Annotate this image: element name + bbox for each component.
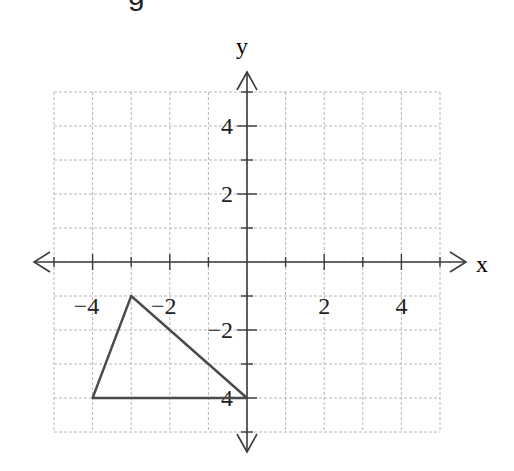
y-axis-label: y	[236, 33, 248, 59]
svg-text:2: 2	[221, 181, 233, 207]
svg-text:2: 2	[318, 293, 330, 319]
svg-text:−2: −2	[207, 317, 233, 343]
svg-text:−4: −4	[74, 293, 100, 319]
x-axis-label: x	[476, 251, 488, 277]
svg-text:4: 4	[221, 113, 233, 139]
svg-text:4: 4	[395, 293, 407, 319]
svg-text:−2: −2	[151, 293, 177, 319]
coordinate-plane: −4−22442−2−4 x y	[0, 0, 514, 471]
